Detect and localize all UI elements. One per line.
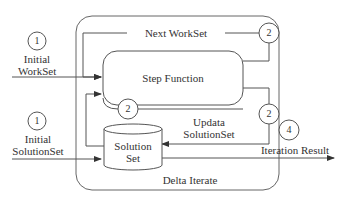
step-function-label: Step Function (103, 72, 243, 84)
marker-number: 2 (259, 104, 279, 124)
initial-solutionset-label: Initial SolutionSet (12, 133, 64, 157)
label-line: SolutionSet (12, 145, 64, 157)
marker-number: 1 (27, 31, 47, 51)
update-solutionset-edge (243, 88, 269, 104)
next-workset-label: Next WorkSet (130, 27, 222, 39)
marker-number: 1 (27, 111, 47, 131)
initial-workset-label: Initial WorkSet (18, 53, 56, 77)
label-line: Initial (12, 133, 64, 145)
delta-iterate-label: Delta Iterate (150, 174, 230, 186)
solutionset-to-step-edge (86, 94, 104, 146)
marker-number: 2 (259, 23, 279, 43)
marker-number: 4 (279, 120, 299, 140)
label-line: Set (104, 152, 162, 164)
label-line: Initial (18, 53, 56, 65)
update-solutionset-label: Updata SolutionSet (170, 116, 248, 140)
iteration-result-label: Iteration Result (255, 144, 335, 156)
label-line: Updata (170, 116, 248, 128)
label-line: SolutionSet (170, 128, 248, 140)
label-line: WorkSet (18, 65, 56, 77)
marker-number: 2 (118, 99, 138, 119)
solution-set-label: Solution Set (104, 140, 162, 164)
next-workset-edge (243, 42, 269, 61)
label-line: Solution (104, 140, 162, 152)
